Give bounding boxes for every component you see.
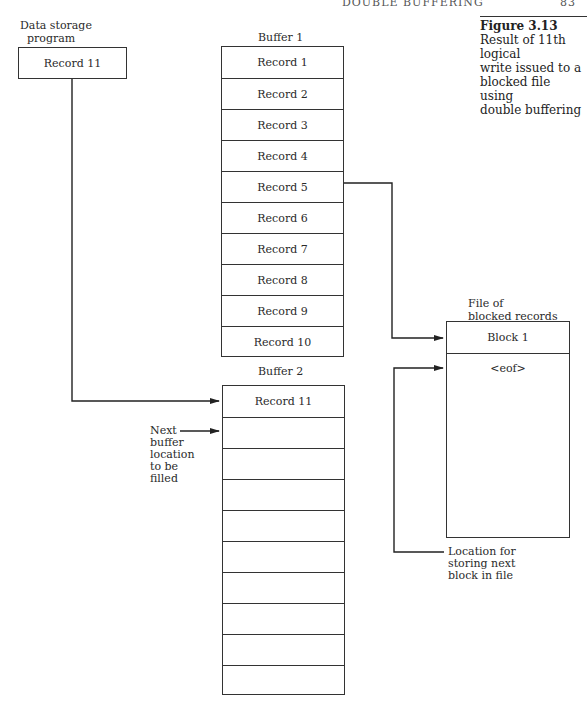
buffer1-to-file-arrow xyxy=(344,183,443,338)
connector-arrows xyxy=(0,0,587,702)
program-to-buffer2-arrow xyxy=(72,79,219,401)
next-block-arrow xyxy=(394,368,444,552)
